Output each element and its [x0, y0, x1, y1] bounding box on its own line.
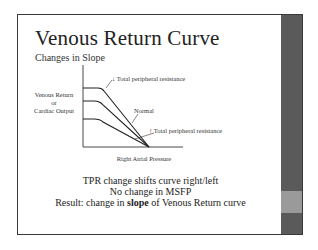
y-axis-label-line3: Cardiac Output [34, 107, 74, 114]
y-axis-label-line2: or [51, 99, 57, 106]
curve-increased-tpr [83, 119, 149, 147]
note-line-3-prefix: Result: change in [55, 197, 127, 208]
note-line-2: No change in MSFP [18, 186, 283, 197]
slide: Venous Return Curve Changes in Slope Ven… [17, 14, 303, 235]
leader-normal [132, 114, 138, 123]
x-axis-label: Right Atrial Pressure [117, 155, 172, 162]
y-axis-label-line1: Venous Return [35, 91, 74, 98]
note-line-3-bold: slope [127, 197, 149, 208]
note-line-3-suffix: of Venous Return curve [149, 197, 246, 208]
label-decreased-tpr: ↓ Total peripheral resistance [112, 75, 185, 82]
note-line-3: Result: change in slope of Venous Return… [18, 197, 283, 208]
note-line-1: TPR change shifts curve right/left [18, 175, 283, 186]
slide-notes: TPR change shifts curve right/left No ch… [18, 175, 283, 208]
label-increased-tpr: ↑ Total peripheral resistance [149, 127, 222, 134]
label-normal: Normal [134, 107, 154, 114]
